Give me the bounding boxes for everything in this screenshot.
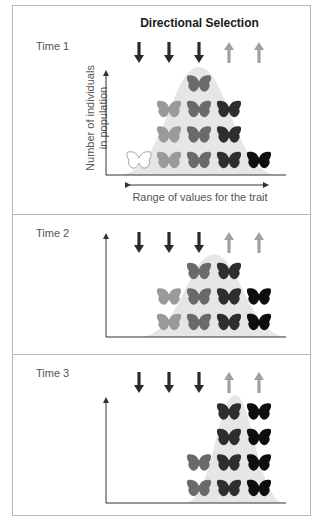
butterfly-icon [127,152,151,168]
down-arrow-icon [164,372,174,393]
up-arrow-icon [254,232,264,253]
down-arrow-icon [194,372,204,393]
y-axis-arrowhead-icon [103,397,109,403]
butterfly-icon [247,288,271,304]
down-arrow-icon [164,42,174,63]
up-arrow-icon [224,42,234,63]
y-axis-arrowhead-icon [103,233,109,239]
down-arrow-icon [194,42,204,63]
down-arrow-icon [134,232,144,253]
up-arrow-icon [224,232,234,253]
up-arrow-icon [254,42,264,63]
butterfly-icon [157,288,181,304]
down-arrow-icon [164,232,174,253]
up-arrow-icon [224,372,234,393]
butterfly-icon [247,429,271,445]
down-arrow-icon [194,232,204,253]
down-arrow-icon [134,42,144,63]
butterfly-icon [247,403,271,419]
down-arrow-icon [134,372,144,393]
butterfly-icon [187,454,211,470]
up-arrow-icon [254,372,264,393]
y-axis-arrowhead-icon [103,70,109,76]
butterfly-icon [247,152,271,168]
directional-selection-diagram [0,0,314,522]
